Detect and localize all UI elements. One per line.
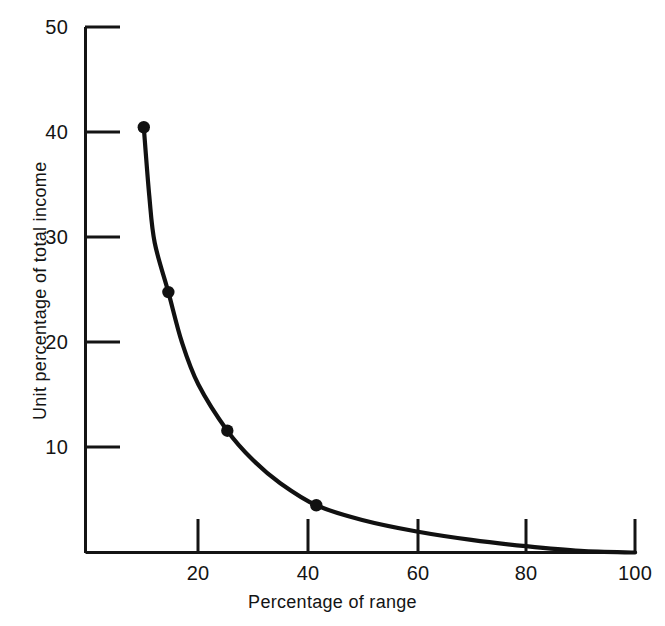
y-axis-title: Unit percentage of total income	[30, 162, 51, 420]
chart-plot-area	[0, 0, 665, 626]
data-point	[138, 121, 150, 133]
x-tick-label-60: 60	[407, 562, 430, 585]
x-tick-label-40: 40	[297, 562, 320, 585]
x-tick-label-20: 20	[187, 562, 210, 585]
y-tick-marks	[85, 27, 120, 447]
x-axis-title: Percentage of range	[0, 592, 665, 613]
data-curve	[144, 127, 635, 552]
data-point	[221, 425, 233, 437]
x-tick-label-80: 80	[515, 562, 538, 585]
y-tick-label-10: 10	[18, 436, 68, 459]
chart-figure: 50 40 30 20 10 20 40 60 80 100 Percentag…	[0, 0, 665, 626]
data-point	[310, 499, 322, 511]
data-point	[162, 286, 174, 298]
y-tick-label-50: 50	[18, 16, 68, 39]
x-tick-marks	[198, 519, 635, 552]
y-tick-label-40: 40	[18, 121, 68, 144]
data-point-markers	[138, 121, 323, 511]
x-tick-label-100: 100	[618, 562, 652, 585]
